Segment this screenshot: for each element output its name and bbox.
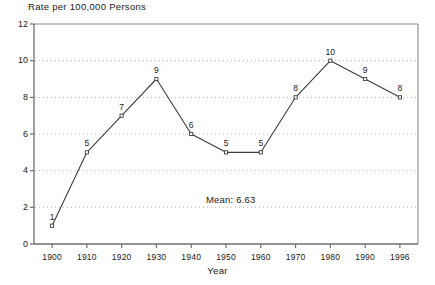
y-tick-label: 10 (2, 56, 28, 65)
data-point-label: 6 (179, 121, 203, 130)
x-axis-title: Year (0, 265, 435, 276)
data-marker (190, 132, 193, 135)
data-point-label: 9 (144, 66, 168, 75)
mean-annotation: Mean: 6.63 (206, 194, 256, 205)
data-marker (50, 224, 53, 227)
data-point-label: 9 (353, 66, 377, 75)
data-point-label: 5 (249, 139, 273, 148)
y-tick-label: 6 (2, 130, 28, 139)
data-marker (364, 77, 367, 80)
data-marker (155, 77, 158, 80)
y-tick-label: 8 (2, 93, 28, 102)
data-point-label: 7 (110, 103, 134, 112)
y-tick-label: 0 (2, 240, 28, 249)
data-point-label: 8 (388, 84, 412, 93)
data-marker (294, 96, 297, 99)
data-point-label: 5 (214, 139, 238, 148)
data-marker (259, 151, 262, 154)
data-point-label: 5 (75, 139, 99, 148)
chart-container: Rate per 100,000 Persons 024681012 19001… (0, 0, 435, 285)
x-tick-label: 1996 (378, 253, 422, 262)
data-point-label: 1 (40, 213, 64, 222)
gridlines (35, 61, 417, 208)
data-marker (120, 114, 123, 117)
data-marker (224, 151, 227, 154)
data-point-label: 10 (318, 48, 342, 57)
y-tick-label: 12 (2, 20, 28, 29)
data-marker (85, 151, 88, 154)
y-tick-label: 4 (2, 166, 28, 175)
data-point-label: 8 (284, 84, 308, 93)
y-tick-label: 2 (2, 203, 28, 212)
data-marker (329, 59, 332, 62)
data-marker (398, 96, 401, 99)
